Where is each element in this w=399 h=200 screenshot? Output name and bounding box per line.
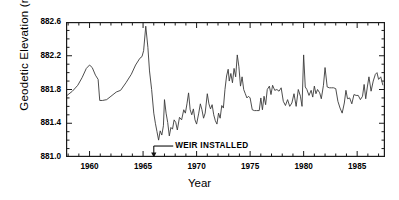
axis-frame — [67, 23, 385, 157]
chart-svg — [66, 22, 385, 157]
annotation-arrow — [151, 146, 173, 157]
x-tick-label: 1975 — [230, 162, 270, 171]
x-axis-title: Year — [0, 177, 399, 189]
x-tick-label: 1970 — [177, 162, 217, 171]
axis-ticks — [66, 22, 385, 157]
annotation-label: WEIR INSTALLED — [175, 141, 248, 150]
x-tick-label: 1985 — [337, 162, 377, 171]
x-tick-label: 1980 — [284, 162, 324, 171]
data-series — [67, 26, 383, 140]
y-tick-label: 882.6 — [21, 17, 61, 26]
y-tick-label: 881.4 — [21, 118, 61, 127]
chart-figure: Geodetic Elevation (m) Year 882.6882.288… — [0, 0, 399, 200]
y-tick-label: 882.2 — [21, 51, 61, 60]
plot-area — [66, 22, 385, 157]
x-tick-label: 1965 — [123, 162, 163, 171]
y-tick-label: 881.0 — [21, 152, 61, 161]
y-tick-label: 881.8 — [21, 85, 61, 94]
x-tick-label: 1960 — [70, 162, 110, 171]
